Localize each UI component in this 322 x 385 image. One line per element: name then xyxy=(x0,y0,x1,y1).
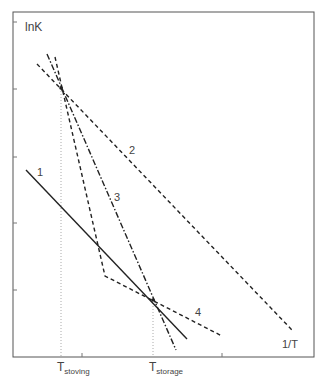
t-stoving-label: Tstoving xyxy=(57,360,90,376)
series-line-3 xyxy=(47,54,176,350)
series-line-4 xyxy=(55,57,222,336)
series-line-1 xyxy=(26,170,187,339)
x-axis-label: 1/T xyxy=(282,338,298,350)
y-axis-label: lnK xyxy=(25,20,42,34)
line-2-label: 2 xyxy=(129,144,135,156)
intersection-stoving xyxy=(59,86,63,90)
t-storage-label: Tstorage xyxy=(149,360,183,376)
line-1-label: 1 xyxy=(37,166,43,178)
arrhenius-chart xyxy=(0,0,322,385)
line-3-label: 3 xyxy=(114,191,120,203)
t-storage-sub: storage xyxy=(156,367,183,376)
t-stoving-sub: stoving xyxy=(64,367,89,376)
y-axis-ticks xyxy=(13,22,17,290)
x-axis-ticks xyxy=(82,353,222,357)
intersection-storage xyxy=(151,298,155,302)
line-4-label: 4 xyxy=(195,306,201,318)
series-line-2 xyxy=(37,64,292,330)
